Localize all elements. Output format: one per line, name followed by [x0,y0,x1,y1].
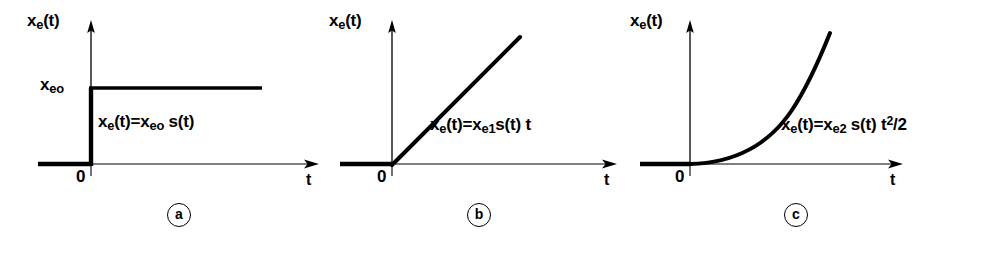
y-axis-b [388,20,396,166]
figure-canvas: xe(t) xeo xe(t)=xeo s(t) 0 t a [0,0,985,254]
x-axis-label-c: t [890,172,895,188]
panel-step-function: xe(t) xeo xe(t)=xeo s(t) 0 t a [0,0,330,254]
x-axis-b [392,160,617,169]
origin-label-c: 0 [675,168,684,185]
equation-label-a: xe(t)=xeo s(t) [98,113,194,130]
origin-label-a: 0 [76,168,85,185]
y-axis-label-a: xe(t) [27,12,60,29]
y-axis-c [686,20,694,166]
panel-tag-a: a [167,203,191,227]
y-value-label-xeo: xeo [40,76,64,93]
x-axis-label-b: t [604,172,609,188]
x-axis-label-a: t [306,172,311,188]
equation-label-b: xe(t)=xe1s(t) t [430,116,531,133]
equation-label-c: xe(t)=xe2 s(t) t2/2 [781,116,907,133]
y-axis-label-c: xe(t) [630,12,663,29]
panel-parabolic-function: xe(t) xe(t)=xe2 s(t) t2/2 0 t c [640,0,970,254]
parabola-curve-c [640,33,830,164]
y-axis-label-b: xe(t) [329,12,362,29]
panel-ramp-function: xe(t) xe(t)=xe1s(t) t 0 t b [320,0,650,254]
panel-tag-b: b [467,203,491,227]
panel-tag-c: c [784,203,808,227]
ramp-curve-b [340,37,520,165]
x-axis-a [91,160,319,169]
origin-label-b: 0 [377,168,386,185]
